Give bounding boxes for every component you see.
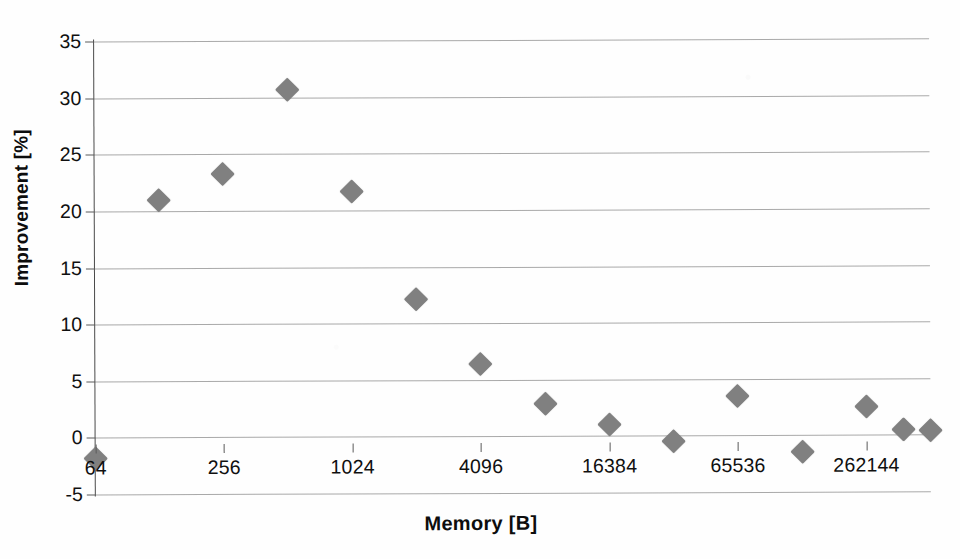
x-axis-tick-label: 16384 <box>582 454 637 477</box>
x-axis-tick-label: 64 <box>85 456 107 479</box>
x-axis-title: Memory [B] <box>1 510 960 537</box>
y-axis-tick <box>86 381 95 382</box>
y-axis-title: Improvement [%] <box>10 0 34 418</box>
y-axis-tick <box>86 325 95 326</box>
data-point-marker <box>726 384 750 408</box>
x-axis-tick <box>738 442 739 451</box>
data-point-marker <box>533 391 557 415</box>
data-point-marker <box>597 413 621 437</box>
gridline <box>94 38 929 42</box>
scatter-chart: 35302520151050-5 64256102440961638465536… <box>0 0 960 559</box>
x-axis-tick <box>609 443 610 452</box>
x-axis-tick <box>481 443 482 452</box>
x-axis-tick-label: 1024 <box>331 455 375 478</box>
y-axis-tick <box>86 155 95 156</box>
gridline <box>95 265 930 269</box>
x-axis-tick-label: 65536 <box>710 454 765 477</box>
data-point-marker <box>469 352 493 376</box>
data-point-marker <box>340 179 364 203</box>
gridline <box>95 378 930 382</box>
x-axis-tick-label: 4096 <box>459 455 503 478</box>
data-point-marker <box>404 288 428 312</box>
gridline <box>95 208 930 212</box>
chart-skew-wrapper: 35302520151050-5 64256102440961638465536… <box>0 0 960 559</box>
y-axis: 35302520151050-5 <box>0 0 959 2</box>
data-point-marker <box>147 188 171 212</box>
data-point-marker <box>919 419 943 443</box>
x-axis-tick-label: 262144 <box>833 453 899 476</box>
x-axis-tick-label: 256 <box>208 456 241 479</box>
data-point-marker <box>211 161 235 185</box>
y-axis-tick <box>87 438 96 439</box>
x-axis-tick <box>96 444 97 453</box>
gridline <box>96 435 931 439</box>
y-axis-tick <box>86 268 95 269</box>
x-axis: 64256102440961638465536262144 <box>1 441 960 505</box>
y-axis-tick <box>85 98 94 99</box>
x-axis-tick <box>866 442 867 451</box>
gridline <box>94 95 929 99</box>
y-axis-tick <box>86 211 95 212</box>
x-axis-tick <box>353 443 354 452</box>
gridline <box>95 321 930 325</box>
y-axis-tick <box>85 41 94 42</box>
plot-area <box>94 38 931 494</box>
gridline <box>95 152 930 156</box>
data-point-marker <box>854 395 878 419</box>
data-point-marker <box>892 417 916 441</box>
x-axis-tick <box>224 444 225 453</box>
